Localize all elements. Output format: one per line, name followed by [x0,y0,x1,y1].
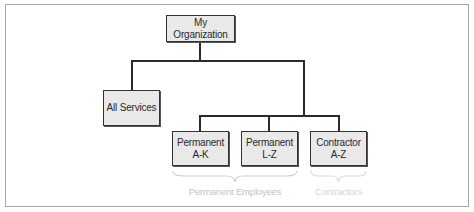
node-label: My Organization [167,17,234,41]
group-label-permanent-employees: Permanent Employees [172,186,298,197]
node-all-services: All Services [103,90,160,126]
group-label-contractors: Contractors [305,186,372,197]
node-label-line2: L-Z [262,149,276,161]
node-label-line1: Contractor [316,137,361,149]
node-label-line2: A-Z [331,149,347,161]
node-label-line1: Permanent [246,137,293,149]
brace-permanent-employees-icon [172,170,298,186]
node-label-line1: Permanent [177,137,224,149]
brace-contractors-icon [310,170,367,186]
connector-to-contractor-a-z [338,115,340,132]
connector-to-permanent-a-k [199,115,201,132]
connector-top-horizontal [131,60,305,62]
node-permanent-a-k: Permanent A-K [172,131,229,166]
connector-to-employee-branch [303,60,305,116]
connector-to-permanent-l-z [268,115,270,132]
node-contractor-a-z: Contractor A-Z [310,131,367,166]
node-label: All Services [107,102,157,114]
node-permanent-l-z: Permanent L-Z [241,131,298,166]
node-my-organization: My Organization [166,15,235,42]
connector-to-all-services [131,60,133,91]
node-label-line2: A-K [192,149,208,161]
connector-root-down [199,42,201,61]
